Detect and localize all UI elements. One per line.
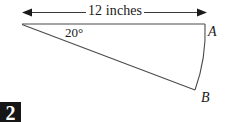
- angle-measure-label: 20°: [65, 26, 83, 39]
- figure-canvas: [0, 0, 229, 122]
- side-apex-to-b: [22, 25, 195, 91]
- dimension-arrow-right-icon: [197, 9, 207, 17]
- page-number-badge: 2: [0, 102, 21, 122]
- vertex-label-a: A: [208, 25, 217, 39]
- vertex-label-b: B: [201, 91, 210, 105]
- arc-a-to-b: [195, 24, 205, 90]
- page-number-text: 2: [0, 103, 21, 122]
- dimension-arrow-left-icon: [22, 9, 32, 17]
- geometry-figure: 12 inches 20° A B 2: [0, 0, 229, 122]
- dimension-label: 12 inches: [86, 4, 144, 18]
